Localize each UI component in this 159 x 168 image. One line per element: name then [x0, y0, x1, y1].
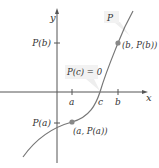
tick-label-pa: P(a) [32, 118, 52, 128]
ivt-diagram: y x a c b P(b) P(a) P P(c) = 0 (b, P(b))… [0, 0, 159, 168]
point-a-label: (a, P(a)) [73, 126, 108, 136]
x-axis-label: x [146, 92, 152, 103]
point-b [115, 40, 120, 45]
y-axis-label: y [49, 12, 56, 23]
point-b-label: (b, P(b)) [122, 40, 157, 50]
curve-label: P [106, 13, 114, 23]
tick-label-pb: P(b) [31, 38, 51, 48]
diagram-svg: y x a c b P(b) P(a) P P(c) = 0 (b, P(b))… [0, 0, 159, 168]
tick-label-c: c [98, 97, 103, 107]
point-a [69, 119, 74, 124]
tick-label-a: a [69, 97, 74, 107]
tick-label-b: b [115, 97, 121, 107]
root-label-pointer [86, 79, 100, 91]
root-label: P(c) = 0 [66, 67, 103, 77]
